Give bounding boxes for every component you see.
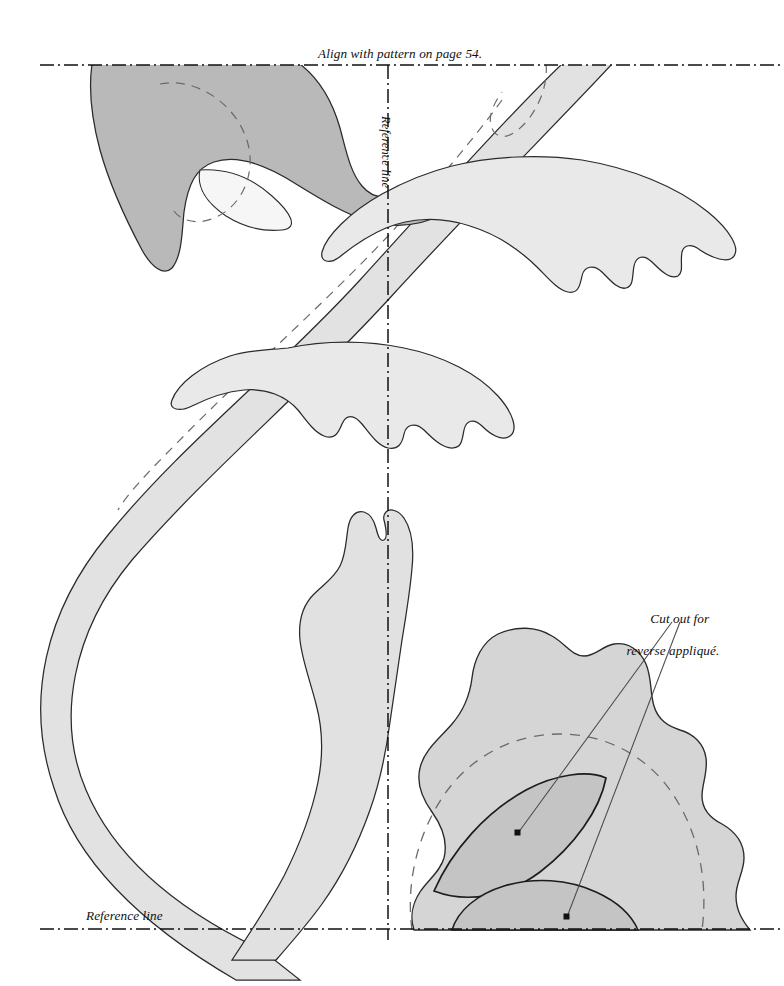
align-note-label: Align with pattern on page 54. [318,46,482,62]
cutout-dot-lens [515,830,521,836]
cutout-dot-lower [564,914,570,920]
cutout-note-line-2: reverse appliqué. [598,643,748,659]
pattern-page: Align with pattern on page 54. Reference… [0,0,784,986]
vertical-reference-line-label: Reference line [378,116,393,188]
leaf-top-left-highlight [199,170,291,231]
cutout-note-line-1: Cut out for [650,611,709,626]
bottom-reference-line-label: Reference line [86,908,163,924]
leaf-long-vertical-outline [232,510,413,960]
cutout-note-label: Cut out for reverse appliqué. [598,595,748,692]
leaf-long-vertical [232,510,413,960]
